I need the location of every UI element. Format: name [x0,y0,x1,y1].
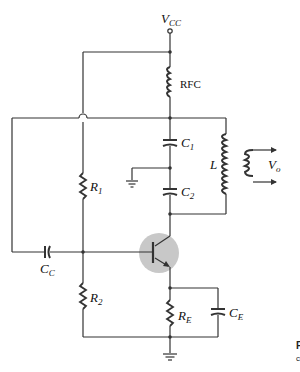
rfc-inductor [167,67,170,97]
c1-plate-bottom [163,145,177,147]
re-label: RE [178,309,191,325]
vo-label: Vo [268,158,280,174]
vcc-terminal [168,29,172,33]
ce-label: CE [229,306,243,322]
c2-plate-bottom [163,194,177,196]
cropped-caption-text: F [296,341,300,351]
r1-label: R1 [90,180,102,196]
vcc-label: VCC [161,12,181,28]
ce-plate-bottom [211,314,225,316]
c1-label: C1 [181,136,194,152]
circuit-schematic [0,0,300,372]
vo-arrow-bottom [271,179,277,185]
secondary-inductor [245,150,253,176]
vo-arrow-top [271,147,277,153]
cc-plate [49,246,51,258]
r1-resistor [80,173,86,199]
l-inductor [222,134,226,194]
cc-label: CC [40,262,55,278]
rfc-label: RFC [180,79,201,90]
transistor-highlight [139,233,179,273]
cropped-caption-text-2: c [296,355,300,363]
l-label: L [210,158,217,171]
re-resistor [167,300,173,326]
r2-resistor [80,283,86,309]
r2-label: R2 [90,291,102,307]
c2-label: C2 [181,185,194,201]
